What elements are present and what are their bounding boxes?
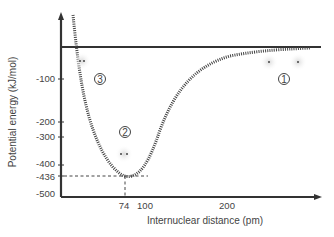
x-tick-label: 200 (219, 200, 235, 211)
circled-number-3: 3 (95, 74, 106, 85)
svg-text:1: 1 (281, 74, 287, 85)
atom-pair-1 (260, 53, 307, 71)
potential-energy-chart: -100 -200 -300 -400 -436 -500 74 100 200… (0, 0, 334, 237)
y-tick-label: -100 (36, 73, 55, 84)
svg-text:3: 3 (97, 74, 103, 85)
potential-energy-curve (73, 15, 310, 177)
y-tick-label: -200 (36, 116, 55, 127)
y-axis-label: Potential energy (kJ/mol) (7, 57, 18, 168)
svg-text:2: 2 (122, 127, 128, 138)
x-axis-label: Internuclear distance (pm) (147, 215, 263, 226)
circled-number-2: 2 (120, 127, 131, 138)
x-axis (61, 194, 322, 200)
y-axis (58, 12, 64, 197)
x-tick-label: 74 (119, 200, 130, 211)
y-tick-label: -500 (36, 188, 55, 199)
circled-number-1: 1 (279, 74, 290, 85)
atom-pair-3 (73, 52, 91, 70)
atom-pair-2 (115, 145, 133, 163)
y-tick-label: -436 (36, 171, 55, 182)
y-tick-label: -400 (36, 158, 55, 169)
y-tick-label: -300 (36, 131, 55, 142)
x-tick-label: 100 (137, 200, 153, 211)
